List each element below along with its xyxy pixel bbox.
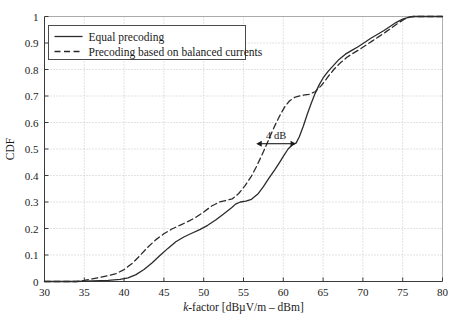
cdf-chart-figure: 3035404550556065707580 00.10.20.30.40.50… <box>0 0 460 320</box>
x-tick-label: 80 <box>437 286 449 298</box>
x-tick-label: 45 <box>158 286 170 298</box>
legend-label-2: Precoding based on balanced currents <box>89 46 263 59</box>
x-tick-label: 50 <box>198 286 210 298</box>
x-tick-label: 70 <box>357 286 369 298</box>
legend-label-1: Equal precoding <box>89 31 165 44</box>
annotation-arrowhead-left <box>256 141 262 147</box>
y-tick-label: 0.9 <box>25 37 39 49</box>
chart-canvas: 3035404550556065707580 00.10.20.30.40.50… <box>0 0 460 320</box>
y-tick-label: 0.3 <box>25 196 39 208</box>
chart-legend: Equal precodingPrecoding based on balanc… <box>49 26 263 60</box>
x-tick-label: 65 <box>318 286 330 298</box>
y-tick-label: 0.8 <box>25 64 39 76</box>
y-tick-label: 0.6 <box>25 117 39 129</box>
y-tick-label: 1 <box>33 11 39 23</box>
y-tick-label: 0.2 <box>25 223 39 235</box>
y-tick-label: 0.7 <box>25 90 39 102</box>
y-tick-label: 0 <box>33 276 39 288</box>
annotation-label: 4 dB <box>266 130 286 141</box>
x-tick-label: 35 <box>79 286 91 298</box>
x-tick-label: 30 <box>39 286 51 298</box>
y-axis-title: CDF <box>4 138 16 160</box>
y-tick-labels: 00.10.20.30.40.50.60.70.80.91 <box>25 11 39 288</box>
annotation-4db: 4 dB <box>256 130 296 147</box>
x-tick-label: 40 <box>119 286 131 298</box>
annotation-arrowhead-right <box>291 141 297 147</box>
y-tick-label: 0.4 <box>25 170 39 182</box>
x-tick-label: 60 <box>278 286 290 298</box>
x-tick-label: 75 <box>397 286 409 298</box>
x-tick-labels: 3035404550556065707580 <box>39 286 449 298</box>
x-axis-title: k-factor [dBµV/m – dBm] <box>183 301 304 314</box>
y-tick-label: 0.1 <box>25 249 39 261</box>
y-tick-label: 0.5 <box>25 143 39 155</box>
x-tick-label: 55 <box>238 286 250 298</box>
